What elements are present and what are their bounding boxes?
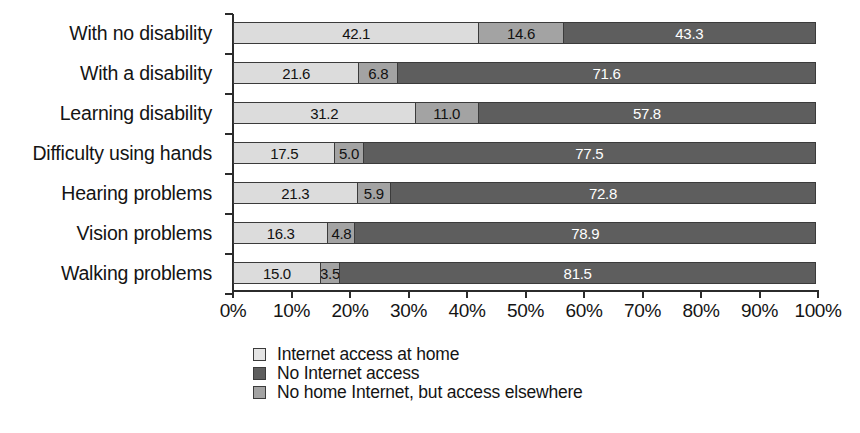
bar-value-label: 17.5: [270, 146, 298, 161]
x-axis-tick: [817, 290, 819, 298]
bar-segment: 16.3: [233, 222, 328, 244]
legend-swatch-icon: [253, 386, 266, 399]
y-axis-tick: [225, 13, 233, 15]
bar-value-label: 21.3: [281, 186, 309, 201]
y-axis-tick: [225, 133, 233, 135]
legend-label: No home Internet, but access elsewhere: [277, 383, 583, 402]
bar-value-label: 71.6: [593, 66, 621, 81]
y-axis-tick: [225, 253, 233, 255]
x-axis-tick: [700, 290, 702, 298]
y-axis-tick: [225, 173, 233, 175]
bar-value-label: 5.9: [364, 186, 384, 201]
bar-value-label: 15.0: [263, 266, 291, 281]
bar-value-label: 31.2: [310, 106, 338, 121]
x-axis-tick: [759, 290, 761, 298]
x-axis-tick: [466, 290, 468, 298]
y-axis-tick: [225, 93, 233, 95]
category-label: With no disability: [0, 22, 212, 44]
legend-item: No home Internet, but access elsewhere: [253, 383, 773, 402]
bar-row: 16.34.878.9: [233, 222, 818, 244]
bar-row: 31.211.057.8: [233, 102, 818, 124]
bar-segment: 17.5: [233, 142, 335, 164]
plot-area: 42.114.643.321.66.871.631.211.057.817.55…: [233, 14, 818, 290]
x-axis-tick-label: 30%: [377, 300, 441, 322]
bar-value-label: 5.0: [339, 146, 359, 161]
x-axis-tick: [525, 290, 527, 298]
bar-value-label: 81.5: [564, 266, 592, 281]
bar-row: 15.03.581.5: [233, 262, 818, 284]
bar-row: 17.55.077.5: [233, 142, 818, 164]
legend-item: No Internet access: [253, 364, 773, 383]
bar-segment: 21.6: [233, 62, 359, 84]
x-axis-tick-label: 100%: [786, 300, 850, 322]
legend-label: No Internet access: [277, 364, 419, 383]
x-axis-tick: [583, 290, 585, 298]
bar-row: 21.66.871.6: [233, 62, 818, 84]
x-axis-tick: [349, 290, 351, 298]
bar-segment: 11.0: [415, 102, 479, 124]
bar-segment: 14.6: [478, 22, 563, 44]
y-axis-tick: [225, 213, 233, 215]
bar-segment: 5.9: [357, 182, 392, 204]
x-axis-tick-label: 60%: [552, 300, 616, 322]
bar-segment: 42.1: [233, 22, 479, 44]
bar-row: 21.35.972.8: [233, 182, 818, 204]
bar-segment: 15.0: [233, 262, 321, 284]
bar-value-label: 57.8: [633, 106, 661, 121]
bar-segment: 21.3: [233, 182, 358, 204]
bar-value-label: 16.3: [267, 226, 295, 241]
category-label: Learning disability: [0, 102, 212, 124]
bar-value-label: 72.8: [589, 186, 617, 201]
x-axis-tick-label: 90%: [728, 300, 792, 322]
x-axis-tick-label: 70%: [611, 300, 675, 322]
x-axis-tick: [232, 290, 234, 298]
category-label: Hearing problems: [0, 182, 212, 204]
legend-swatch-icon: [253, 367, 266, 380]
category-label: Vision problems: [0, 222, 212, 244]
bar-segment: 71.6: [397, 62, 816, 84]
bar-segment: 43.3: [563, 22, 816, 44]
bar-segment: 6.8: [358, 62, 398, 84]
x-axis-tick: [408, 290, 410, 298]
chart-legend: Internet access at homeNo Internet acces…: [253, 345, 773, 402]
x-axis-tick-label: 0%: [201, 300, 265, 322]
bar-segment: 31.2: [233, 102, 416, 124]
category-label: Difficulty using hands: [0, 142, 212, 164]
x-axis-tick: [291, 290, 293, 298]
stacked-bar-chart: With no disabilityWith a disabilityLearn…: [0, 0, 860, 433]
category-label: Walking problems: [0, 262, 212, 284]
bar-value-label: 6.8: [368, 66, 388, 81]
legend-swatch-icon: [253, 348, 266, 361]
bar-value-label: 77.5: [575, 146, 603, 161]
x-axis-tick: [642, 290, 644, 298]
bar-value-label: 11.0: [433, 106, 460, 121]
bar-segment: 78.9: [354, 222, 816, 244]
y-axis-tick: [225, 53, 233, 55]
bar-row: 42.114.643.3: [233, 22, 818, 44]
legend-item: Internet access at home: [253, 345, 773, 364]
bar-value-label: 3.5: [320, 266, 340, 281]
x-axis-tick-label: 10%: [260, 300, 324, 322]
bar-segment: 5.0: [334, 142, 363, 164]
bar-value-label: 43.3: [675, 26, 703, 41]
x-axis-tick-label: 80%: [669, 300, 733, 322]
bar-value-label: 4.8: [331, 226, 351, 241]
bar-segment: 57.8: [478, 102, 816, 124]
category-label: With a disability: [0, 62, 212, 84]
x-axis-tick-label: 40%: [435, 300, 499, 322]
x-axis: 0%10%20%30%40%50%60%70%80%90%100%: [233, 290, 818, 330]
bar-segment: 77.5: [363, 142, 816, 164]
bar-value-label: 21.6: [282, 66, 310, 81]
bar-segment: 72.8: [390, 182, 816, 204]
bar-segment: 4.8: [327, 222, 355, 244]
bar-segment: 81.5: [339, 262, 816, 284]
category-axis-labels: With no disabilityWith a disabilityLearn…: [0, 0, 224, 290]
bar-value-label: 42.1: [342, 26, 370, 41]
legend-label: Internet access at home: [277, 345, 459, 364]
bar-segment: 3.5: [320, 262, 340, 284]
x-axis-tick-label: 50%: [494, 300, 558, 322]
x-axis-tick-label: 20%: [318, 300, 382, 322]
bar-value-label: 78.9: [571, 226, 599, 241]
bar-value-label: 14.6: [507, 26, 535, 41]
